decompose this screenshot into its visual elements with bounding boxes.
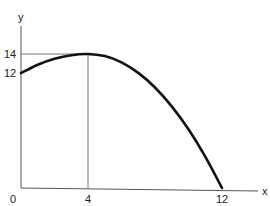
- y-tick-label: 14: [4, 48, 16, 60]
- axes: [21, 26, 258, 191]
- x-tick-label: 12: [216, 193, 228, 205]
- x-axis-label: x: [262, 185, 268, 197]
- series-curve: [21, 54, 222, 188]
- peak-guides: [21, 54, 88, 189]
- y-axis-label: y: [18, 11, 24, 23]
- x-tick-label: 4: [85, 193, 91, 205]
- y-tick-label: 12: [4, 67, 16, 79]
- x-tick-label: 0: [10, 193, 16, 205]
- chart: y x 0412 1214: [0, 0, 270, 206]
- y-tick-labels: 1214: [4, 48, 16, 79]
- x-tick-labels: 0412: [10, 193, 228, 205]
